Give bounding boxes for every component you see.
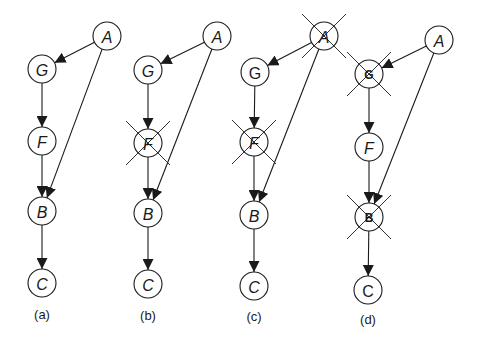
- node-f: F: [355, 133, 383, 161]
- cross-out-icon: [302, 14, 346, 58]
- node-label: B: [249, 208, 260, 225]
- node-label: A: [101, 29, 113, 46]
- node-g: G: [241, 58, 269, 86]
- edge-a-to-g: [267, 42, 311, 65]
- node-label: B: [37, 204, 48, 221]
- edge-g-to-f: [254, 86, 255, 128]
- panel-c-nodes: AGFBC: [232, 14, 346, 300]
- node-a: A: [93, 22, 121, 50]
- edge-a-to-g: [161, 42, 205, 64]
- panel-b-nodes: AGFBC: [126, 22, 231, 298]
- node-b: B: [28, 197, 56, 225]
- edge-b-to-c: [368, 231, 369, 276]
- node-c: C: [134, 270, 162, 298]
- node-label: F: [37, 134, 48, 151]
- edge-a-to-g: [54, 42, 94, 62]
- node-c: C: [354, 276, 382, 304]
- nodes-layer: AGFBCAGFBCAGFBCAGFBC: [28, 14, 453, 304]
- node-c: C: [28, 269, 56, 297]
- node-label: G: [36, 62, 48, 79]
- node-f: F: [28, 127, 56, 155]
- node-label: F: [364, 140, 375, 157]
- panel-label-d: (d): [360, 312, 376, 327]
- edge-a-to-g: [382, 46, 427, 68]
- node-g: G: [134, 56, 162, 84]
- node-a: A: [302, 14, 346, 58]
- node-label: C: [36, 276, 48, 293]
- node-label: A: [433, 33, 445, 50]
- panel-label-c: (c): [246, 309, 261, 324]
- node-label: G: [142, 63, 154, 80]
- node-a: A: [425, 26, 453, 54]
- node-g: G: [28, 55, 56, 83]
- panel-label-a: (a): [34, 307, 50, 322]
- node-label: B: [143, 206, 154, 223]
- labels-layer: (a)(b)(c)(d): [34, 307, 376, 327]
- node-label: C: [248, 279, 260, 296]
- node-label: G: [249, 65, 261, 82]
- node-a: A: [203, 22, 231, 50]
- diagram-canvas: AGFBCAGFBCAGFBCAGFBC (a)(b)(c)(d): [0, 0, 477, 341]
- node-b: B: [134, 199, 162, 227]
- node-c: C: [240, 272, 268, 300]
- panel-label-b: (b): [140, 308, 156, 323]
- node-b: B: [240, 201, 268, 229]
- node-label: C: [142, 277, 154, 294]
- node-label: A: [211, 29, 223, 46]
- panel-d-nodes: AGFBC: [347, 26, 453, 304]
- node-label: C: [362, 283, 374, 300]
